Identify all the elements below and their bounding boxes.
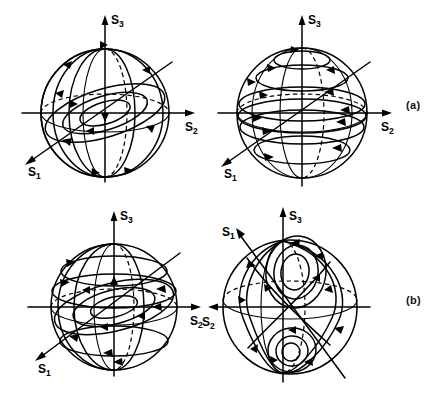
panel-label-b: (b) xyxy=(406,294,421,306)
axis-s3-top-left xyxy=(102,15,109,182)
axis-s3-top-right xyxy=(299,15,306,186)
axis-s1-bottom-right xyxy=(236,228,345,378)
axis-label-s3-top-right: S3 xyxy=(308,13,321,29)
axis-label-s1-top-right: S1 xyxy=(224,167,237,183)
axis-label-s3-top-left: S3 xyxy=(111,13,124,29)
axis-label-s2-top-left: S2 xyxy=(185,120,198,136)
axis-label-s2-top-right: S2 xyxy=(381,120,394,136)
axis-label-s3-bottom-right: S3 xyxy=(289,209,302,225)
sphere-top-right: S3 S2 S1 xyxy=(218,13,394,186)
sphere-top-left: S3 S2 S1 xyxy=(22,13,198,182)
sphere-bottom-left: S3 S2 S1 xyxy=(28,209,203,378)
axis-label-s1-bottom-left: S1 xyxy=(38,362,51,378)
sphere-bottom-right: S3 S2 S1 xyxy=(202,207,370,382)
axis-label-s2-bottom-right: S2 xyxy=(202,315,215,331)
panel-label-a: (a) xyxy=(406,99,420,111)
axis-label-s3-bottom-left: S3 xyxy=(120,209,133,225)
axis-label-s1-top-left: S1 xyxy=(28,165,41,181)
poincare-sphere-figure: S3 S2 S1 xyxy=(0,0,446,401)
axis-label-s1-bottom-right: S1 xyxy=(222,225,235,241)
figure-canvas: S3 S2 S1 xyxy=(0,0,446,401)
